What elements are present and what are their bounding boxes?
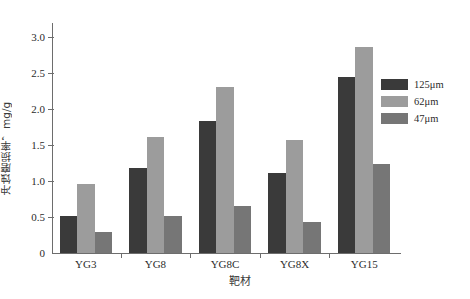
bar [129,168,147,253]
y-tick-label: 1.5 [31,140,45,151]
bar [268,173,286,253]
bar [373,164,391,253]
bar [147,137,165,253]
y-tick-label: 0.5 [31,212,45,223]
bar [234,206,252,253]
bar [164,216,182,253]
y-tick-mark [48,217,54,218]
y-tick-mark [48,73,54,74]
bar [216,87,234,253]
legend-label: 47μm [414,113,438,124]
legend-item: 47μm [381,110,470,127]
x-tick-label: YG3 [75,258,96,271]
bar [77,184,95,253]
x-tick-label: YG8 [145,258,166,271]
plot-area [53,23,401,253]
bar [95,232,113,253]
y-tick-mark [48,109,54,110]
legend-label: 125μm [414,79,444,90]
y-tick-label: 3.0 [31,32,45,43]
bar [286,140,304,253]
bars-layer [53,23,401,253]
x-axis-title: 靶材 [0,275,470,288]
y-tick-label: 2.5 [31,68,45,79]
x-tick-label: YG8C [211,258,240,271]
legend: 125μm62μm47μm [381,76,470,127]
bar [60,216,78,253]
legend-item: 125μm [381,76,470,93]
legend-swatch [381,79,408,90]
x-tick-label: YG15 [351,258,378,271]
legend-item: 62μm [381,93,470,110]
x-axis-line [52,253,401,254]
y-tick-label: 1.0 [31,176,45,187]
y-axis-title: 冲蚀磨损率，mg/g [0,58,16,238]
x-axis-tick-labels: YG3YG8YG8CYG8XYG15 [53,258,401,274]
x-tick-label: YG8X [280,258,309,271]
bar [303,222,321,253]
bar [338,77,356,253]
y-axis-tick-labels: 00.51.01.52.02.53.0 [16,0,49,299]
y-tick-mark [48,145,54,146]
bar [355,47,373,253]
legend-label: 62μm [414,96,438,107]
y-tick-mark [48,37,54,38]
y-tick-label: 0 [40,248,46,259]
erosion-wear-rate-bar-chart: 冲蚀磨损率，mg/g 00.51.01.52.02.53.0 YG3YG8YG8… [0,0,470,299]
bar [199,121,217,253]
legend-swatch [381,113,408,124]
y-tick-label: 2.0 [31,104,45,115]
y-tick-mark [48,181,54,182]
legend-swatch [381,96,408,107]
